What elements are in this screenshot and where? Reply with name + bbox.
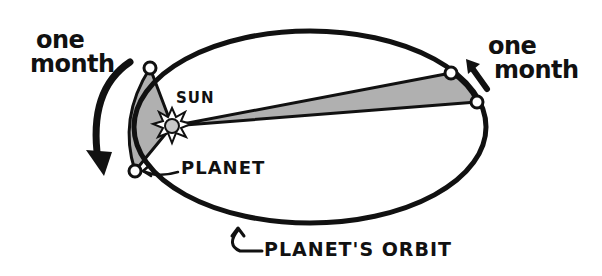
left-period-label-line2: month	[30, 52, 115, 76]
planet-position-marker	[471, 96, 483, 108]
planet-orbit-ellipse	[134, 31, 486, 223]
sun-icon	[153, 108, 191, 143]
left-motion-arrow-icon	[86, 62, 130, 176]
planet-position-marker	[445, 67, 457, 79]
right-swept-area	[172, 73, 477, 126]
orbit-label: PLANET'S ORBIT	[264, 240, 452, 259]
sun-label: SUN	[176, 91, 215, 106]
right-period-label-line1: one	[488, 34, 536, 58]
right-period-label-line2: month	[494, 58, 579, 82]
kepler-orbit-diagram: one month one month SUN PLANET PLANET'S …	[0, 0, 602, 276]
planet-pointer-arrow-icon	[143, 165, 178, 176]
planet-position-marker	[129, 165, 141, 177]
planet-position-marker	[144, 62, 156, 74]
orbit-pointer-arrow-icon	[232, 228, 262, 251]
left-period-label-line1: one	[36, 28, 84, 52]
planet-label: PLANET	[181, 159, 265, 177]
